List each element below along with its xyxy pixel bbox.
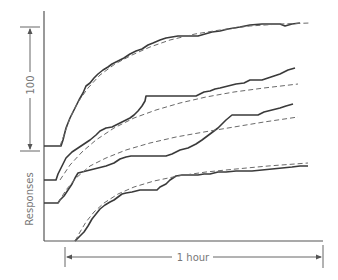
fit-curve-fit-1 (60, 23, 310, 146)
scale-bar-100: 100 (20, 27, 40, 151)
cumulative-record-record-4 (75, 166, 308, 241)
arrow-left-icon (66, 255, 72, 260)
cumulative-record-record-2 (44, 68, 295, 180)
cumulative-record-record-3 (44, 104, 293, 203)
time-label: 1 hour (177, 252, 210, 263)
fit-curve-fit-2 (60, 84, 298, 180)
cumulative-record-record-1 (44, 23, 300, 146)
arrow-up-icon (28, 28, 33, 34)
arrow-right-icon (316, 255, 322, 260)
time-bar-1-hour: 1 hour (65, 245, 323, 268)
y-axis-label: Responses (24, 172, 35, 225)
fit-curve-fit-3 (58, 117, 298, 203)
series-layer (44, 23, 310, 241)
cumulative-record-chart: 100 Responses 1 hour (0, 0, 338, 280)
arrow-down-icon (28, 144, 33, 150)
scale-label: 100 (25, 75, 36, 94)
